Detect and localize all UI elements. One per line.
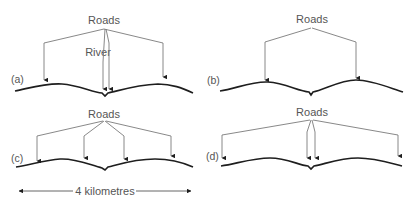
scale-bar: 4 kilometres — [19, 185, 191, 197]
road-arrow-c-4 — [106, 121, 171, 156]
roads-label-c: Roads — [88, 108, 120, 120]
road-arrow-a-3 — [106, 29, 109, 89]
roads-label-d: Roads — [296, 106, 328, 118]
panel-label-a: (a) — [11, 73, 24, 85]
panel-a: Roads River (a) — [11, 14, 193, 96]
ground-profile-b — [220, 80, 403, 95]
river-label-a: River — [85, 46, 111, 58]
road-arrow-c-2 — [84, 121, 104, 158]
panel-c: Roads (c) — [11, 108, 193, 170]
road-arrow-c-3 — [105, 121, 124, 159]
ground-profile-a — [15, 84, 193, 96]
road-arrow-a-4 — [104, 29, 163, 77]
roads-label-b: Roads — [296, 13, 328, 25]
scale-label: 4 kilometres — [75, 185, 135, 197]
road-arrow-c-1 — [37, 121, 103, 161]
road-arrow-d-1 — [222, 120, 310, 158]
panel-label-d: (d) — [206, 150, 219, 162]
roads-label-a: Roads — [88, 14, 120, 26]
road-arrow-b-2 — [312, 28, 356, 78]
road-arrow-a-2 — [103, 29, 105, 89]
panel-d: Roads (d) — [206, 106, 402, 169]
road-arrow-d-3 — [312, 120, 315, 158]
road-placement-diagram: Roads River (a) Roads (b) Roads (c) Road… — [0, 0, 416, 206]
panel-label-c: (c) — [11, 152, 23, 164]
panel-b: Roads (b) — [207, 13, 403, 95]
ground-profile-d — [221, 158, 402, 169]
ground-profile-c — [16, 159, 193, 170]
road-arrow-d-4 — [313, 120, 398, 156]
road-arrow-b-1 — [265, 28, 311, 80]
road-arrow-d-2 — [307, 120, 311, 158]
panel-label-b: (b) — [207, 74, 220, 86]
